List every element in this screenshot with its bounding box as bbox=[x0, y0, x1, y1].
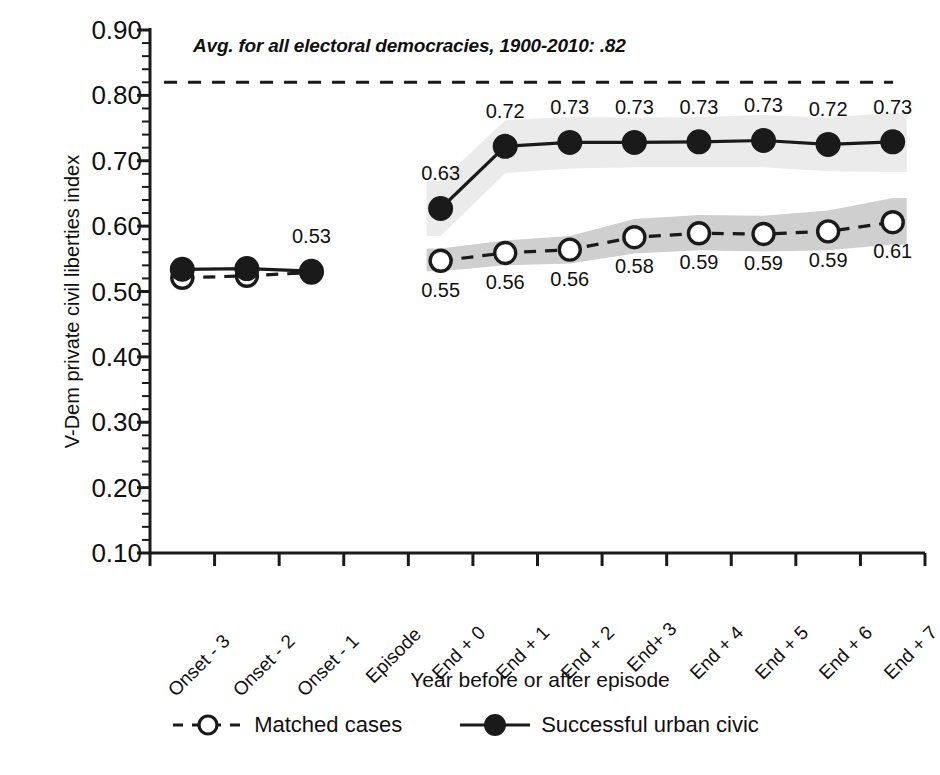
marker-filled bbox=[429, 197, 452, 220]
marker-open bbox=[818, 221, 839, 242]
marker-open bbox=[559, 239, 580, 260]
marker-open bbox=[430, 250, 451, 271]
marker-filled bbox=[300, 260, 323, 283]
marker-filled bbox=[881, 130, 904, 153]
data-label: 0.58 bbox=[615, 255, 654, 278]
marker-open bbox=[624, 227, 645, 248]
chart-legend: Matched casesSuccessful urban civic bbox=[0, 712, 930, 738]
marker-filled bbox=[235, 257, 258, 280]
data-label: 0.61 bbox=[873, 240, 912, 263]
legend-label: Matched cases bbox=[254, 712, 402, 738]
data-label: 0.73 bbox=[615, 96, 654, 119]
data-label: 0.73 bbox=[744, 94, 783, 117]
marker-filled bbox=[171, 258, 194, 281]
data-label: 0.73 bbox=[550, 96, 589, 119]
marker-filled bbox=[558, 131, 581, 154]
data-label: 0.72 bbox=[486, 100, 525, 123]
data-label: 0.53 bbox=[292, 225, 331, 248]
legend-label: Successful urban civic bbox=[541, 712, 759, 738]
data-label: 0.72 bbox=[809, 98, 848, 121]
marker-filled bbox=[623, 131, 646, 154]
marker-filled bbox=[494, 135, 517, 158]
data-label: 0.56 bbox=[486, 271, 525, 294]
legend-item-2[interactable]: Successful urban civic bbox=[458, 712, 759, 738]
reference-line-annotation: Avg. for all electoral democracies, 1900… bbox=[193, 35, 626, 57]
data-label: 0.73 bbox=[873, 96, 912, 119]
marker-open bbox=[753, 223, 774, 244]
data-label: 0.59 bbox=[809, 249, 848, 272]
marker-open bbox=[882, 212, 903, 233]
marker-open bbox=[495, 242, 516, 263]
marker-filled bbox=[817, 133, 840, 156]
data-label: 0.59 bbox=[679, 251, 718, 274]
data-label: 0.56 bbox=[550, 268, 589, 291]
legend-filled-circle-icon bbox=[458, 712, 532, 738]
legend-open-circle-icon bbox=[171, 712, 245, 738]
data-label: 0.73 bbox=[679, 96, 718, 119]
x-axis-title: Year before or after episode bbox=[150, 668, 930, 692]
legend-marker bbox=[485, 715, 505, 735]
data-label: 0.59 bbox=[744, 252, 783, 275]
data-label: 0.55 bbox=[421, 279, 460, 302]
legend-item-1[interactable]: Matched cases bbox=[171, 712, 402, 738]
marker-filled bbox=[687, 130, 710, 153]
legend-marker bbox=[199, 716, 217, 734]
marker-filled bbox=[752, 129, 775, 152]
data-label: 0.63 bbox=[421, 162, 460, 185]
marker-open bbox=[688, 223, 709, 244]
